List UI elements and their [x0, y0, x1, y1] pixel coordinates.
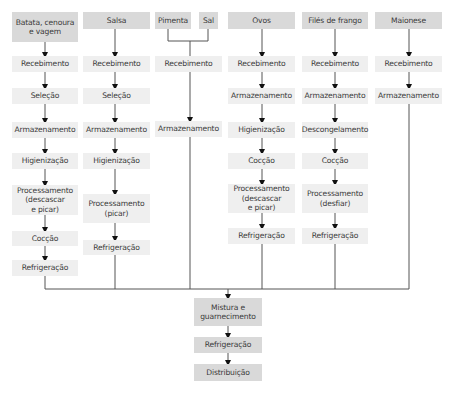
step-label: e picar)	[31, 205, 59, 215]
c4-refrigeracao: Refrigeração	[228, 228, 295, 244]
step-label: Mistura e	[211, 303, 245, 313]
header-batata-cenoura-vagem: Batata, cenoura e vagem	[12, 12, 78, 42]
step-label: Refrigeração	[205, 340, 251, 350]
step-label: Armazenamento	[86, 125, 147, 135]
c1-armazenamento: Armazenamento	[12, 122, 78, 138]
c1-higienizacao: Higienização	[12, 153, 78, 169]
c1-processamento: Processamento (descascar e picar)	[12, 185, 78, 215]
header-pimenta: Pimenta	[155, 12, 191, 29]
c5-coccao: Cocção	[302, 153, 368, 169]
step-label: Recebimento	[384, 59, 432, 69]
step-label: Armazenamento	[378, 91, 439, 101]
step-label: Refrigeração	[22, 263, 68, 273]
c1-recebimento: Recebimento	[12, 56, 78, 72]
c5-descongelamento: Descongelamento	[302, 122, 368, 138]
c4-processamento: Processamento (descascar e picar)	[228, 184, 295, 213]
step-label: Cocção	[322, 156, 349, 166]
step-label: Armazenamento	[231, 91, 292, 101]
c1-selecao: Seleção	[12, 88, 78, 104]
step-label: Armazenamento	[305, 91, 366, 101]
step-label: Seleção	[102, 91, 131, 101]
c6-armazenamento: Armazenamento	[375, 88, 442, 104]
step-label: Descongelamento	[302, 125, 369, 135]
step-label: Refrigeração	[238, 231, 284, 241]
c4-higienizacao: Higienização	[228, 122, 295, 138]
c4-coccao: Cocção	[228, 153, 295, 169]
step-label: Processamento	[307, 189, 363, 199]
step-label: Seleção	[31, 91, 60, 101]
header-label: Ovos	[252, 16, 270, 26]
c6-recebimento: Recebimento	[375, 56, 442, 72]
step-label: guarnecimento	[200, 312, 256, 322]
step-label: Higienização	[93, 156, 140, 166]
c3-armazenamento: Armazenamento	[155, 121, 222, 137]
header-maionese: Maionese	[375, 12, 442, 29]
final-mistura-guarnecimento: Mistura e guarnecimento	[194, 298, 262, 326]
step-label: Recebimento	[164, 59, 212, 69]
header-salsa: Salsa	[83, 12, 150, 29]
c4-recebimento: Recebimento	[228, 56, 295, 72]
step-label: Armazenamento	[15, 125, 76, 135]
c2-processamento: Processamento (picar)	[83, 194, 150, 223]
step-label: Recebimento	[92, 59, 140, 69]
header-label: Sal	[203, 16, 214, 26]
header-label: Pimenta	[158, 16, 188, 26]
header-line-2: e vagem	[29, 27, 61, 37]
step-label: Cocção	[32, 234, 59, 244]
c5-processamento: Processamento (desfiar)	[302, 184, 368, 213]
step-label: Refrigeração	[312, 231, 358, 241]
final-distribuicao: Distribuição	[194, 364, 262, 381]
step-label: Armazenamento	[158, 124, 219, 134]
header-line-1: Batata, cenoura	[16, 18, 75, 28]
c5-recebimento: Recebimento	[302, 56, 368, 72]
header-label: Salsa	[107, 16, 126, 26]
step-label: (descascar	[242, 194, 282, 204]
c2-higienizacao: Higienização	[83, 153, 150, 169]
step-label: Distribuição	[206, 368, 250, 378]
step-label: Processamento	[233, 184, 289, 194]
step-label: (descascar	[25, 195, 65, 205]
c1-refrigeracao: Refrigeração	[12, 260, 78, 276]
step-label: Refrigeração	[93, 243, 139, 253]
step-label: Processamento	[17, 186, 73, 196]
header-label: Filés de frango	[308, 16, 361, 26]
header-sal: Sal	[199, 12, 218, 29]
step-label: Recebimento	[237, 59, 285, 69]
final-refrigeracao: Refrigeração	[194, 337, 262, 353]
header-files-de-frango: Filés de frango	[302, 12, 368, 29]
step-label: e picar)	[248, 203, 276, 213]
step-label: Processamento	[88, 199, 144, 209]
step-label: (desfiar)	[320, 199, 351, 209]
step-label: Cocção	[248, 156, 275, 166]
step-label: Recebimento	[21, 59, 69, 69]
c4-armazenamento: Armazenamento	[228, 88, 295, 104]
c1-coccao: Cocção	[12, 231, 78, 246]
c5-armazenamento: Armazenamento	[302, 88, 368, 104]
c5-refrigeracao: Refrigeração	[302, 228, 368, 244]
header-label: Maionese	[391, 16, 426, 26]
c2-armazenamento: Armazenamento	[83, 122, 150, 138]
c2-selecao: Seleção	[83, 88, 150, 104]
step-label: Recebimento	[311, 59, 359, 69]
step-label: Higienização	[22, 156, 69, 166]
header-ovos: Ovos	[228, 12, 295, 29]
c2-refrigeracao: Refrigeração	[83, 240, 150, 255]
step-label: (picar)	[105, 209, 129, 219]
step-label: Higienização	[238, 125, 285, 135]
c3-recebimento: Recebimento	[155, 56, 222, 72]
c2-recebimento: Recebimento	[83, 56, 150, 72]
